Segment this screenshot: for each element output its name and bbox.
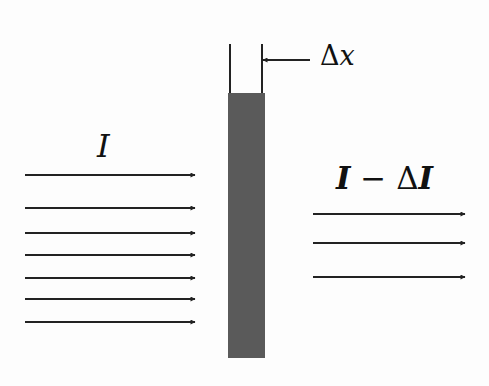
absorption-diagram: Δx I I − ΔI xyxy=(0,0,489,386)
incident-beam-arrows xyxy=(25,175,195,322)
minus-sign: − xyxy=(351,160,397,196)
intensity-i: I xyxy=(419,160,434,196)
absorbing-slab xyxy=(228,93,265,358)
incident-intensity-label: I xyxy=(97,127,110,165)
intensity-i: I xyxy=(97,127,110,165)
delta-symbol: Δ xyxy=(396,160,418,196)
delta-symbol: Δ xyxy=(320,40,340,71)
transmitted-beam-arrows xyxy=(313,214,465,277)
intensity-i: I xyxy=(336,160,351,196)
transmitted-intensity-label: I − ΔI xyxy=(336,160,433,196)
thickness-bracket xyxy=(230,44,262,93)
x-variable: x xyxy=(340,40,355,71)
thickness-label: Δx xyxy=(320,40,355,71)
